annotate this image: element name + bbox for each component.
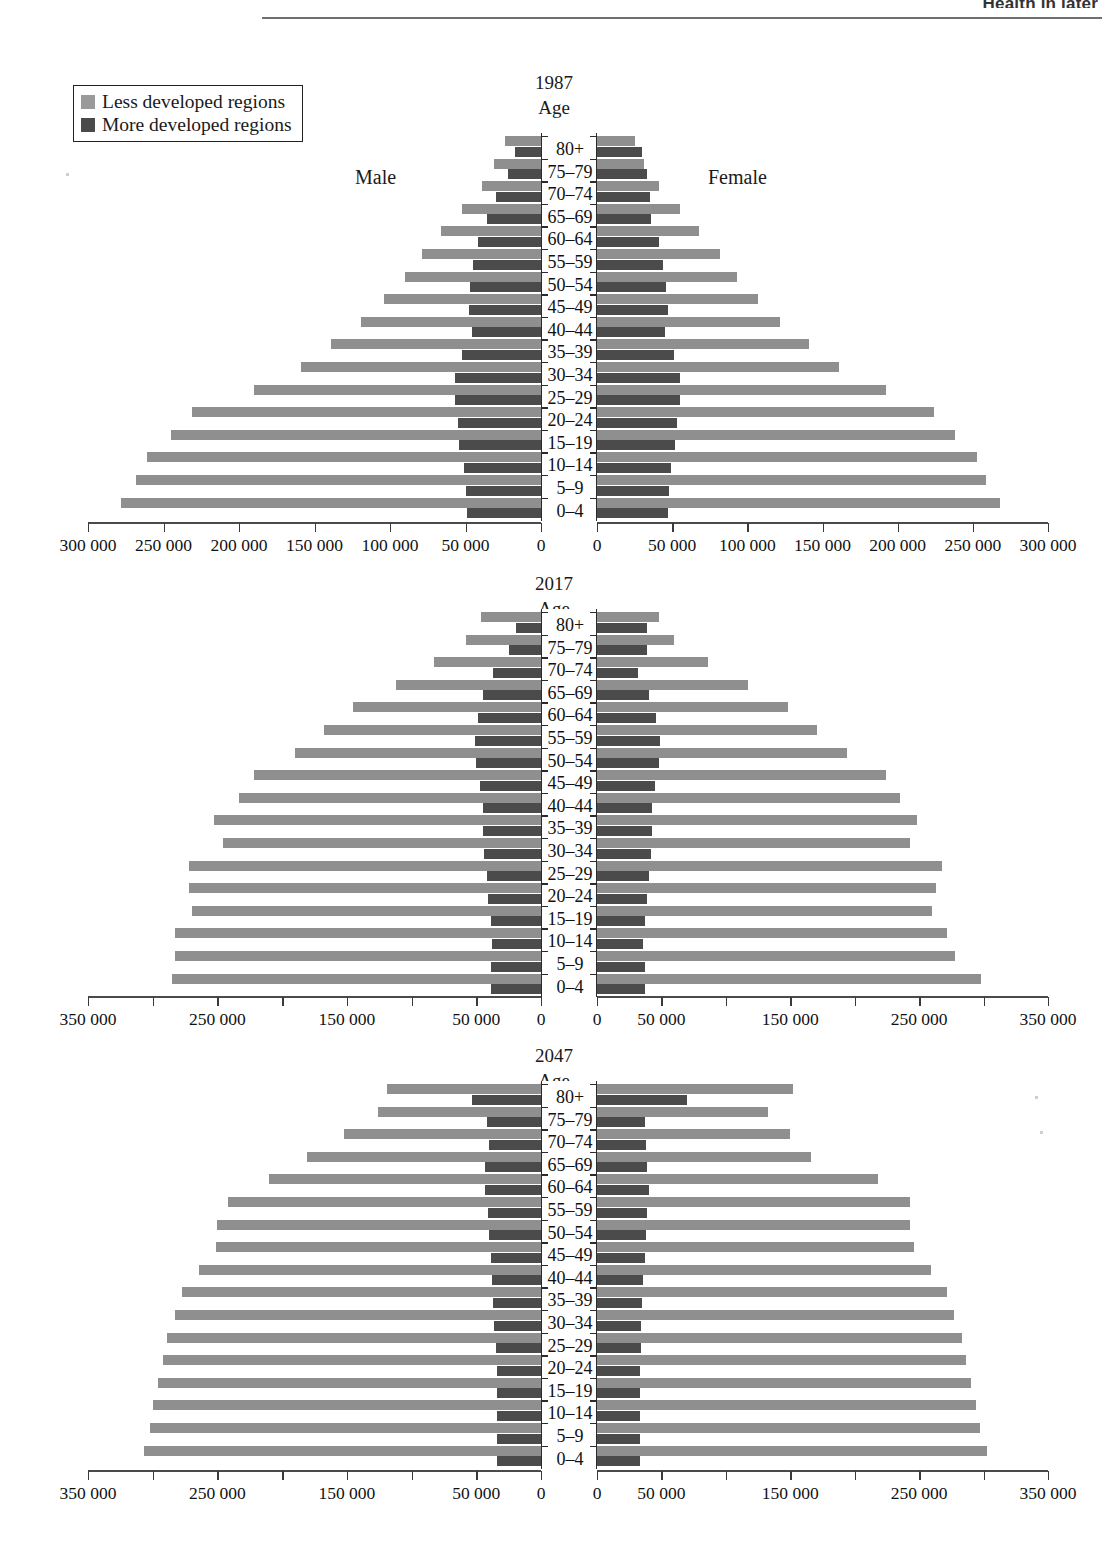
bar-female-less-developed — [597, 1287, 947, 1297]
age-tick — [590, 702, 596, 703]
bar-female-less-developed — [597, 1174, 878, 1184]
age-group-label: 80+ — [542, 1088, 598, 1106]
age-tick — [590, 1265, 596, 1266]
bar-male-more-developed — [493, 1298, 541, 1308]
age-tick — [542, 407, 548, 408]
axis-tick-male — [347, 1471, 348, 1480]
axis-tick-male — [541, 1471, 542, 1480]
age-tick — [590, 1242, 596, 1243]
chart-legend: Less developed regions More developed re… — [73, 85, 303, 142]
age-tick — [590, 680, 596, 681]
bar-female-less-developed — [597, 1220, 910, 1230]
bar-female-more-developed — [597, 1388, 640, 1398]
bar-female-more-developed — [597, 1343, 641, 1353]
age-tick — [542, 1197, 548, 1198]
age-group-label: 55–59 — [542, 729, 598, 747]
axis-tick-male — [88, 1471, 89, 1480]
age-tick — [590, 362, 596, 363]
age-group-label: 15–19 — [542, 1382, 598, 1400]
female-axis-line — [597, 1470, 1048, 1472]
bar-male-more-developed — [497, 1366, 541, 1376]
axis-tick-label-female: 0 — [593, 1483, 602, 1504]
bar-female-more-developed — [597, 1117, 645, 1127]
age-tick — [542, 1107, 548, 1108]
age-tick — [590, 452, 596, 453]
age-group-label: 60–64 — [542, 230, 598, 248]
age-tick — [590, 385, 596, 386]
age-tick — [590, 815, 596, 816]
age-tick — [590, 1174, 596, 1175]
bar-female-more-developed — [597, 1253, 645, 1263]
axis-tick-label-female: 50 000 — [637, 1483, 685, 1504]
bar-female-more-developed — [597, 1298, 642, 1308]
age-group-label: 30–34 — [542, 366, 598, 384]
age-tick — [590, 1197, 596, 1198]
bar-male-less-developed — [228, 1197, 541, 1207]
bar-female-less-developed — [597, 1446, 987, 1456]
bar-male-less-developed — [378, 1107, 541, 1117]
age-tick — [590, 793, 596, 794]
age-tick — [542, 1265, 548, 1266]
age-tick — [542, 1310, 548, 1311]
age-group-label: 5–9 — [542, 1427, 598, 1445]
age-category-column: 80+75–7970–7465–6960–6455–5950–5445–4940… — [541, 1081, 597, 1469]
bar-female-less-developed — [597, 1423, 980, 1433]
age-tick — [590, 770, 596, 771]
age-tick — [590, 204, 596, 205]
bar-male-more-developed — [497, 1456, 541, 1466]
legend-label-less-developed: Less developed regions — [102, 90, 285, 113]
bar-female-more-developed — [597, 1162, 647, 1172]
age-tick — [590, 612, 596, 613]
age-group-label: 10–14 — [542, 1404, 598, 1422]
age-tick — [590, 272, 596, 273]
age-tick — [590, 1446, 596, 1447]
age-tick — [542, 974, 548, 975]
bar-female-less-developed — [597, 1378, 971, 1388]
age-tick — [590, 748, 596, 749]
age-tick — [590, 1333, 596, 1334]
age-group-label: 40–44 — [542, 797, 598, 815]
age-group-label: 50–54 — [542, 276, 598, 294]
age-tick — [590, 498, 596, 499]
age-tick — [542, 159, 548, 160]
bar-male-more-developed — [497, 1388, 541, 1398]
chart-title-2047: 2047 — [0, 1045, 1108, 1067]
bar-male-less-developed — [158, 1378, 541, 1388]
bar-female-more-developed — [597, 1185, 649, 1195]
axis-tick-label-female: 150 000 — [762, 1483, 819, 1504]
age-tick — [542, 1355, 548, 1356]
age-group-label: 75–79 — [542, 1111, 598, 1129]
age-tick — [590, 906, 596, 907]
age-tick — [542, 226, 548, 227]
age-tick — [590, 407, 596, 408]
bar-female-more-developed — [597, 1366, 640, 1376]
age-tick — [542, 702, 548, 703]
age-tick — [542, 815, 548, 816]
age-tick — [590, 951, 596, 952]
bar-female-more-developed — [597, 1411, 640, 1421]
age-tick — [542, 339, 548, 340]
bar-male-more-developed — [489, 1140, 541, 1150]
bar-female-less-developed — [597, 1333, 962, 1343]
age-group-label: 80+ — [542, 616, 598, 634]
age-tick — [590, 294, 596, 295]
age-tick — [590, 249, 596, 250]
bar-female-less-developed — [597, 1152, 811, 1162]
age-group-label: 35–39 — [542, 819, 598, 837]
age-tick — [542, 1174, 548, 1175]
age-tick — [542, 1152, 548, 1153]
axis-tick-label-female: 250 000 — [891, 1483, 948, 1504]
age-group-label: 10–14 — [542, 932, 598, 950]
age-tick — [542, 883, 548, 884]
age-group-label: 60–64 — [542, 706, 598, 724]
age-tick — [590, 1220, 596, 1221]
age-tick — [590, 317, 596, 318]
bar-male-more-developed — [487, 1117, 541, 1127]
age-tick — [542, 362, 548, 363]
age-tick — [590, 1378, 596, 1379]
bar-male-more-developed — [485, 1162, 541, 1172]
axis-tick-label-male: 0 — [537, 1483, 546, 1504]
age-group-label: 20–24 — [542, 411, 598, 429]
age-group-label: 50–54 — [542, 1224, 598, 1242]
age-group-label: 0–4 — [542, 978, 598, 996]
